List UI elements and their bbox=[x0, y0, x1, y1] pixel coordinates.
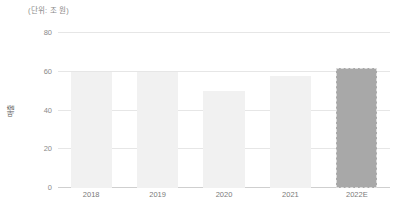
x-tick-label-2018: 2018 bbox=[58, 190, 124, 199]
y-axis-title-text: 매출 bbox=[5, 105, 15, 117]
x-axis-tick-labels: 20182019202020212022E bbox=[58, 190, 390, 199]
bar-chart: (단위: 조 원) 매출 020406080 20182019202020212… bbox=[0, 0, 407, 222]
unit-note-label: (단위: 조 원) bbox=[28, 4, 69, 15]
y-tick-label: 20 bbox=[44, 144, 52, 153]
bar-2020[interactable] bbox=[203, 91, 244, 188]
bar-slot bbox=[324, 33, 390, 188]
y-tick-label: 60 bbox=[44, 66, 52, 75]
x-tick-label-2022E: 2022E bbox=[324, 190, 390, 199]
bar-slot bbox=[124, 33, 190, 188]
y-axis-title: 매출 bbox=[2, 0, 18, 222]
bar-2021[interactable] bbox=[270, 76, 311, 188]
bar-slot bbox=[58, 33, 124, 188]
bars-container bbox=[58, 33, 390, 188]
y-tick-label: 80 bbox=[44, 28, 52, 37]
bar-2018[interactable] bbox=[71, 72, 112, 188]
bar-slot bbox=[257, 33, 323, 188]
bar-slot bbox=[191, 33, 257, 188]
bar-2022E[interactable] bbox=[336, 68, 377, 188]
x-tick-label-2021: 2021 bbox=[257, 190, 323, 199]
bar-2019[interactable] bbox=[137, 72, 178, 188]
y-tick-label: 40 bbox=[44, 105, 52, 114]
y-tick-label: 0 bbox=[48, 183, 52, 192]
plot-area: 020406080 bbox=[58, 33, 390, 188]
x-tick-label-2020: 2020 bbox=[191, 190, 257, 199]
x-tick-label-2019: 2019 bbox=[124, 190, 190, 199]
